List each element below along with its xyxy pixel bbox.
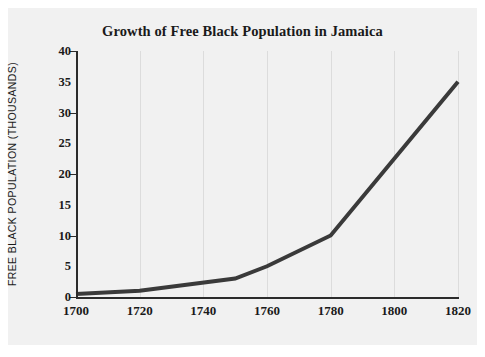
y-tick-label: 25 <box>59 136 72 151</box>
x-tick-label: 1700 <box>63 303 89 319</box>
y-tick-label: 5 <box>65 259 71 274</box>
series-line <box>76 51 458 297</box>
y-tick-label: 35 <box>59 74 72 89</box>
y-axis-label: FREE BLACK POPULATION (THOUSANDS) <box>6 51 22 297</box>
y-tick-label: 15 <box>59 197 72 212</box>
chart-figure: Growth of Free Black Population in Jamai… <box>8 8 477 345</box>
x-tick-label: 1720 <box>127 303 153 319</box>
x-axis-line <box>76 297 459 299</box>
x-tick-label: 1820 <box>445 303 471 319</box>
gridline <box>458 51 459 297</box>
plot-area: 0510152025303540 17001720174017601780180… <box>76 51 458 297</box>
y-tick-label: 20 <box>59 167 72 182</box>
x-tick-label: 1800 <box>381 303 407 319</box>
x-tick-label: 1740 <box>190 303 216 319</box>
data-line <box>76 82 458 294</box>
y-tick-label: 30 <box>59 105 72 120</box>
y-axis-line <box>76 51 78 298</box>
y-tick-label: 40 <box>59 44 72 59</box>
y-tick-label: 10 <box>59 228 72 243</box>
chart-title: Growth of Free Black Population in Jamai… <box>8 23 477 40</box>
x-tick-label: 1780 <box>318 303 344 319</box>
x-tick-label: 1760 <box>254 303 280 319</box>
